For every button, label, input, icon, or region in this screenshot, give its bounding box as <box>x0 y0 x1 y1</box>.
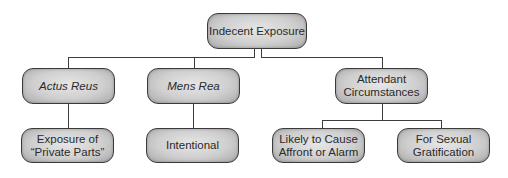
node-attendant-circumstances: Attendant Circumstances <box>335 68 428 104</box>
connector-to-actus-reus <box>68 57 69 68</box>
node-label: Mens Rea <box>167 80 219 93</box>
node-exposure-of-private-parts: Exposure of “Private Parts” <box>21 128 114 163</box>
node-label: Exposure of “Private Parts” <box>31 133 105 159</box>
node-label: Attendant Circumstances <box>343 73 419 99</box>
connector-attendant-horizontal <box>322 120 442 121</box>
node-label: For Sexual Gratification <box>413 133 474 159</box>
node-label: Likely to Cause Affront or Alarm <box>279 133 359 159</box>
node-mens-rea: Mens Rea <box>147 68 240 104</box>
node-likely-to-cause-affront: Likely to Cause Affront or Alarm <box>272 128 365 163</box>
node-root-indecent-exposure: Indecent Exposure <box>207 13 307 49</box>
node-label: Indecent Exposure <box>209 25 305 38</box>
connector-mens-rea-to-child <box>193 104 194 128</box>
node-for-sexual-gratification: For Sexual Gratification <box>397 128 490 163</box>
connector-to-sexual-gratification <box>441 120 442 128</box>
connector-root-left-horizontal <box>68 57 255 58</box>
node-actus-reus: Actus Reus <box>22 68 115 104</box>
connector-to-attendant-circumstances <box>382 57 383 68</box>
connector-actus-reus-to-child <box>68 104 69 128</box>
node-intentional: Intentional <box>146 128 239 163</box>
node-label: Intentional <box>166 139 219 152</box>
connector-root-left-down <box>254 49 255 57</box>
connector-root-right-horizontal <box>261 57 383 58</box>
connector-to-mens-rea <box>194 57 195 68</box>
connector-to-likely-to-cause <box>322 120 323 128</box>
node-label: Actus Reus <box>39 80 98 93</box>
indecent-exposure-diagram: Indecent Exposure Actus Reus Mens Rea At… <box>0 0 508 178</box>
connector-root-right-down <box>261 49 262 57</box>
connector-attendant-down <box>382 104 383 120</box>
